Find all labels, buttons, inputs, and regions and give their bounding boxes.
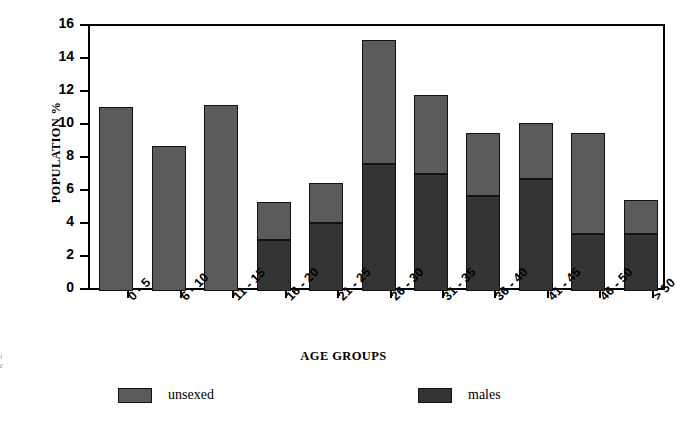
bar-column — [414, 26, 448, 292]
legend-item: males — [418, 384, 501, 406]
y-axis-tick-mark — [80, 123, 88, 125]
bar-segment-females — [309, 183, 343, 223]
y-axis-tick-label: 12 — [58, 81, 74, 97]
bar-segment-females — [624, 200, 658, 234]
bar-segment-males — [571, 234, 605, 291]
bar-segment-unsexed — [204, 105, 238, 291]
y-axis-tick-label: 10 — [58, 114, 74, 130]
bar-segment-unsexed — [99, 107, 133, 291]
y-axis-tick-mark — [80, 24, 88, 26]
bar-segment-males — [624, 234, 658, 291]
y-axis-tick-mark — [80, 189, 88, 191]
y-axis-tick-mark — [80, 57, 88, 59]
bar-column — [519, 26, 553, 292]
bar-column — [466, 26, 500, 292]
y-axis-tick-label: 8 — [66, 147, 74, 163]
legend-label: males — [468, 387, 501, 403]
y-axis-tick-label: 4 — [66, 213, 74, 229]
x-axis-title: AGE GROUPS — [0, 349, 687, 364]
y-axis-tick-label: 14 — [58, 48, 74, 64]
y-axis-tick-label: 6 — [66, 180, 74, 196]
plot-area — [88, 24, 665, 290]
bar-column — [204, 26, 238, 292]
chart-legend: unsexedmalesfemales — [88, 384, 665, 410]
bar-segment-females — [362, 40, 396, 164]
bar-chart-figure: ic POPULATION % 0246810121416 0 - 56 - 1… — [0, 0, 687, 430]
bar-segment-females — [571, 133, 605, 234]
y-axis-tick-mark — [80, 222, 88, 224]
y-axis-tick-mark — [80, 156, 88, 158]
legend-label: unsexed — [168, 387, 214, 403]
bar-segment-males — [257, 240, 291, 291]
y-axis-tick-label: 2 — [66, 246, 74, 262]
legend-swatch — [418, 388, 452, 403]
legend-swatch — [118, 388, 152, 403]
legend-item: unsexed — [118, 384, 214, 406]
y-axis-tick-label: 0 — [66, 279, 74, 295]
y-axis-tick-mark — [80, 288, 88, 290]
bar-column — [152, 26, 186, 292]
bar-column — [624, 26, 658, 292]
bar-column — [309, 26, 343, 292]
bar-segment-unsexed — [152, 146, 186, 291]
bar-column — [362, 26, 396, 292]
bar-segment-females — [466, 133, 500, 196]
y-axis-tick-mark — [80, 255, 88, 257]
bar-segment-females — [257, 202, 291, 240]
bar-column — [99, 26, 133, 292]
bar-column — [257, 26, 291, 292]
y-axis-tick-mark — [80, 90, 88, 92]
bar-segment-females — [519, 123, 553, 179]
bar-segment-females — [414, 95, 448, 174]
bar-column — [571, 26, 605, 292]
y-axis-tick-label: 16 — [58, 15, 74, 31]
